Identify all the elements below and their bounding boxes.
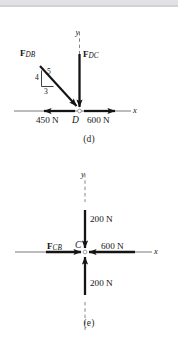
free-body-diagram-e: y x 200 N 200 N 600 N FCB C (e) bbox=[0, 160, 178, 350]
caption-d: (d) bbox=[0, 134, 178, 144]
force-subscript-fdc: DC bbox=[89, 52, 99, 60]
x-axis-label-e: x bbox=[154, 247, 158, 256]
force-label-fcb: FCB bbox=[47, 242, 62, 252]
force-fdb-arrow-d bbox=[40, 66, 77, 106]
force-magnitude-450n: 450 N bbox=[36, 116, 59, 125]
force-subscript-fcb: CB bbox=[53, 244, 62, 252]
joint-label-d: D bbox=[72, 116, 79, 126]
force-magnitude-600n-d: 600 N bbox=[87, 116, 110, 125]
slope-label-hypotenuse-d: 5 bbox=[47, 68, 51, 76]
y-axis-label-e: y bbox=[81, 170, 85, 179]
slope-label-horizontal-d: 3 bbox=[44, 88, 48, 96]
page-top-strip bbox=[0, 0, 178, 7]
force-label-fdc: FDC bbox=[83, 50, 99, 60]
diagram-d-graphics bbox=[0, 8, 178, 150]
force-magnitude-600n-e: 600 N bbox=[101, 242, 124, 251]
figure-page: y x FDC FDB 4 5 3 450 N 600 N D (d) bbox=[0, 0, 178, 350]
joint-dot-d bbox=[78, 109, 82, 113]
x-axis-label-d: x bbox=[133, 106, 137, 115]
slope-label-vertical-d: 4 bbox=[35, 74, 39, 82]
force-magnitude-200n-top: 200 N bbox=[90, 215, 113, 224]
force-magnitude-200n-bottom: 200 N bbox=[90, 279, 113, 288]
force-subscript-fdb: DB bbox=[26, 51, 36, 59]
joint-label-c: C bbox=[75, 241, 81, 251]
caption-e: (e) bbox=[0, 318, 178, 328]
y-axis-label-d: y bbox=[76, 28, 80, 37]
free-body-diagram-d: y x FDC FDB 4 5 3 450 N 600 N D (d) bbox=[0, 8, 178, 150]
joint-dot-c bbox=[83, 250, 87, 254]
force-label-fdb: FDB bbox=[20, 49, 35, 59]
page-top-rule bbox=[0, 5, 178, 7]
